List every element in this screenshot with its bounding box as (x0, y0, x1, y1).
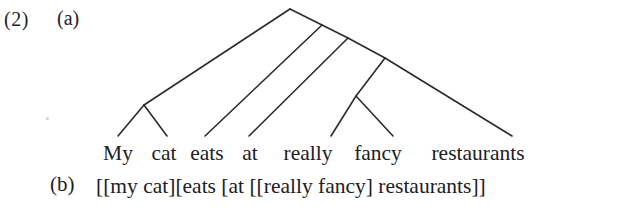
example-figure: (2) (a) Mycateatsatreallyfancyrestaurant… (0, 0, 623, 208)
leaf-word-row: Mycateatsatreallyfancyrestaurants (0, 140, 623, 168)
tree-edge-spine1-to-spine2 (322, 25, 348, 38)
bracket-notation: [[my cat][eats [at [[really fancy] resta… (96, 172, 486, 200)
tree-edge-spine2-to-at (249, 38, 348, 136)
tree-edge-root-to-np (144, 9, 290, 105)
tree-edge-root-to-spine1 (290, 9, 322, 25)
tree-edge-np-to-my (118, 105, 144, 136)
leaf-word: My (103, 140, 133, 166)
leaf-word: at (242, 140, 258, 166)
leaf-word: really (284, 140, 333, 166)
leaf-word: restaurants (431, 140, 524, 166)
sub-label-b: (b) (50, 172, 75, 197)
leaf-word: eats (190, 140, 223, 166)
tree-edge-ap-to-fancy (356, 96, 393, 136)
leaf-word: cat (151, 140, 176, 166)
tree-edge-np-to-cat (144, 105, 167, 136)
leaf-word: fancy (354, 140, 402, 166)
tree-edge-spine3-to-ap (356, 58, 385, 96)
tree-edge-ap-to-really (331, 96, 356, 136)
tree-edge-spine3-to-restaurants (385, 58, 512, 136)
tree-edge-spine2-to-spine3 (348, 38, 385, 58)
